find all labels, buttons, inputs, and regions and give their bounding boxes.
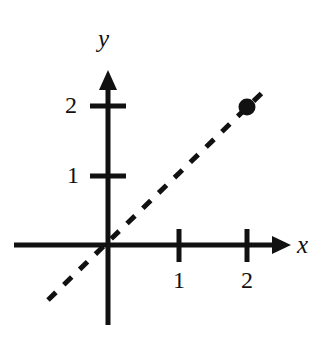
marked-point-dot bbox=[239, 99, 256, 116]
y-tick-label-1: 1 bbox=[58, 163, 88, 187]
y-tick-label-2: 2 bbox=[56, 93, 86, 117]
coordinate-plane-svg bbox=[0, 0, 326, 341]
x-tick-label-2: 2 bbox=[232, 268, 262, 292]
y-axis-arrow-icon bbox=[99, 70, 117, 90]
x-axis-label: x bbox=[297, 232, 308, 257]
line-graph-figure: y x 1 2 1 2 bbox=[0, 0, 326, 341]
y-axis-label: y bbox=[98, 26, 109, 51]
x-axis-arrow-icon bbox=[272, 236, 291, 254]
x-tick-label-1: 1 bbox=[164, 268, 194, 292]
